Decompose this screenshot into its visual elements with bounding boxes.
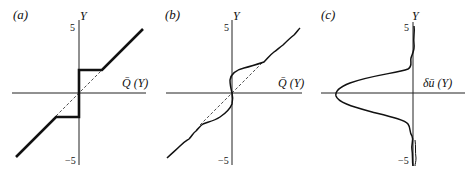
panel-a-x-axis-label: Q̄ (Y) [122,76,148,90]
panel-b-y-axis-label: Y [233,9,241,23]
figure-canvas: (a) Y 5 −5 Q̄ (Y) (b) Y 5 −5 Q̄ (Y) (c) … [0,0,472,173]
panel-c-x-axis-label: δū (Y) [423,76,452,90]
panel-c-y-axis-label: Y [412,9,420,23]
panel-c-label: (c) [321,7,335,22]
panel-b: (b) Y 5 −5 Q̄ (Y) [165,7,304,166]
panel-c-tail-wiggle [415,140,416,166]
panel-c-y-tick-bottom: −5 [398,155,409,166]
panel-c: (c) Y 5 −5 δū (Y) [321,7,465,166]
panel-a-y-tick-top: 5 [70,22,75,33]
panel-b-x-axis-label: Q̄ (Y) [278,76,304,90]
panel-a-y-tick-bottom: −5 [65,155,76,166]
panel-b-y-tick-top: 5 [224,22,229,33]
panel-b-y-tick-bottom: −5 [218,155,229,166]
panel-c-y-tick-top: 5 [404,22,409,33]
panel-b-label: (b) [165,7,180,22]
panel-a-label: (a) [13,7,28,22]
panel-c-deficit-curve [336,26,415,166]
panel-a-y-axis-label: Y [80,9,88,23]
panel-a: (a) Y 5 −5 Q̄ (Y) [12,7,148,166]
